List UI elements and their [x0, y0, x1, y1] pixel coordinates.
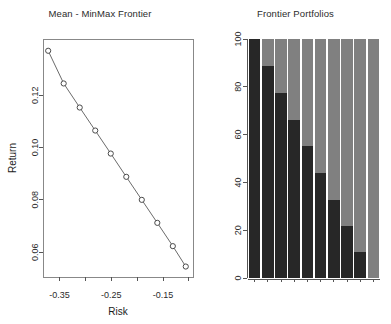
right-panel-title: Frontier Portfolios — [200, 8, 391, 19]
bar-segment-asset-1[interactable] — [341, 226, 352, 278]
panel-frontier-portfolios: Frontier Portfolios 020406080100 — [200, 0, 391, 324]
plot-frame — [43, 39, 193, 277]
bar-group[interactable] — [368, 39, 379, 278]
frontier-point[interactable] — [139, 197, 144, 202]
frontier-point[interactable] — [155, 220, 160, 225]
figure-canvas: Mean - MinMax Frontier 0.060.080.100.12-… — [0, 0, 391, 324]
bar-segment-asset-2[interactable] — [341, 39, 352, 226]
y-tick-label: 80 — [233, 82, 243, 92]
y-tick-label: 0 — [233, 275, 243, 280]
bar-segment-asset-2[interactable] — [328, 39, 339, 200]
y-tick-label: 20 — [233, 225, 243, 235]
bar-segment-asset-2[interactable] — [354, 39, 365, 252]
bar-group[interactable] — [341, 39, 352, 278]
bar-segment-asset-1[interactable] — [275, 93, 286, 278]
bar-segment-asset-2[interactable] — [302, 39, 313, 146]
y-tick-label: 0.10 — [30, 139, 40, 157]
left-panel-title: Mean - MinMax Frontier — [0, 8, 200, 19]
y-tick-label: 0.08 — [30, 191, 40, 209]
x-tick-label: -0.25 — [101, 290, 122, 300]
bar-segment-asset-1[interactable] — [328, 200, 339, 278]
frontier-point[interactable] — [93, 128, 98, 133]
bar-segment-asset-2[interactable] — [275, 39, 286, 93]
frontier-point[interactable] — [46, 48, 51, 53]
x-tick-label: -0.35 — [49, 290, 70, 300]
bar-group[interactable] — [302, 39, 313, 278]
bar-group[interactable] — [328, 39, 339, 278]
frontier-point[interactable] — [77, 105, 82, 110]
bar-segment-asset-1[interactable] — [302, 146, 313, 278]
y-axis-title: Return — [7, 143, 18, 173]
scatter-plot-svg: 0.060.080.100.12-0.35-0.25-0.15RiskRetur… — [0, 0, 200, 324]
bar-group[interactable] — [288, 39, 299, 278]
x-tick-label: -0.15 — [153, 290, 174, 300]
frontier-point[interactable] — [61, 81, 66, 86]
bar-segment-asset-1[interactable] — [354, 252, 365, 278]
frontier-point[interactable] — [124, 174, 129, 179]
frontier-point[interactable] — [183, 264, 188, 269]
bar-segment-asset-2[interactable] — [262, 39, 273, 66]
bar-segment-asset-2[interactable] — [288, 39, 299, 120]
y-tick-label: 100 — [233, 31, 243, 46]
bar-group[interactable] — [275, 39, 286, 278]
y-tick-label: 40 — [233, 177, 243, 187]
bar-segment-asset-2[interactable] — [315, 39, 326, 173]
bar-group[interactable] — [315, 39, 326, 278]
bar-segment-asset-1[interactable] — [315, 173, 326, 278]
frontier-point[interactable] — [170, 244, 175, 249]
y-tick-label: 0.12 — [30, 86, 40, 104]
y-tick-label: 60 — [233, 130, 243, 140]
x-axis-title: Risk — [108, 306, 128, 317]
bar-segment-asset-1[interactable] — [262, 66, 273, 278]
bar-segment-asset-1[interactable] — [249, 39, 260, 278]
bar-group[interactable] — [262, 39, 273, 278]
bar-segment-asset-1[interactable] — [288, 120, 299, 278]
frontier-point[interactable] — [108, 151, 113, 156]
panel-mean-minmax-frontier: Mean - MinMax Frontier 0.060.080.100.12-… — [0, 0, 200, 324]
frontier-line — [48, 51, 186, 267]
y-tick-label: 0.06 — [30, 243, 40, 261]
bar-group[interactable] — [354, 39, 365, 278]
stacked-bar-chart-svg: 020406080100 — [200, 0, 391, 324]
bar-group[interactable] — [249, 39, 260, 278]
bar-segment-asset-2[interactable] — [368, 39, 379, 278]
